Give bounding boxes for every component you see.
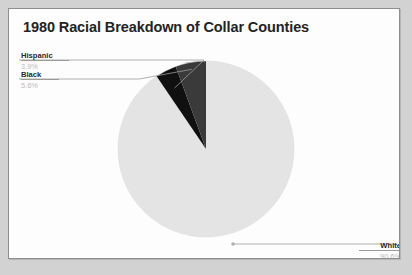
pie-slice-white[interactable]: [118, 61, 294, 237]
callout-white[interactable]: White 90.6%: [359, 241, 400, 259]
callout-black-label: Black: [21, 70, 59, 79]
slide-panel: 1980 Racial Breakdown of Collar Counties…: [8, 8, 400, 259]
callout-white-value: 90.6%: [359, 251, 400, 259]
callout-hispanic[interactable]: Hispanic 3.9%: [21, 51, 69, 71]
scanned-page-background: 1980 Racial Breakdown of Collar Counties…: [0, 0, 412, 275]
callout-white-label: White: [359, 241, 400, 250]
callout-black-value: 5.6%: [21, 80, 59, 90]
callout-hispanic-label: Hispanic: [21, 51, 69, 60]
pie-chart-figure: [9, 9, 400, 259]
callout-black[interactable]: Black 5.6%: [21, 70, 59, 90]
leader-dot-white: [231, 242, 235, 246]
